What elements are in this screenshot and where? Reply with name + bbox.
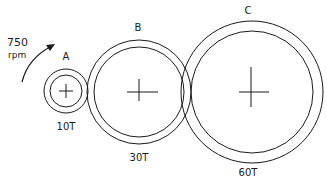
gear-a-teeth: 10T bbox=[57, 121, 77, 132]
input-speed-value: 750 bbox=[7, 36, 28, 49]
gear-a-label: A bbox=[63, 51, 70, 62]
gear-b-teeth: 30T bbox=[130, 152, 150, 163]
gear-train-diagram: 750 rpm A 10T B 30T C 60T bbox=[0, 0, 327, 178]
gear-a bbox=[44, 69, 88, 113]
gear-b bbox=[87, 40, 191, 144]
gear-c-teeth: 60T bbox=[239, 167, 259, 178]
input-speed-unit: rpm bbox=[8, 50, 26, 60]
gear-c-label: C bbox=[245, 5, 252, 16]
gear-b-label: B bbox=[135, 22, 142, 33]
gear-c bbox=[181, 21, 323, 163]
